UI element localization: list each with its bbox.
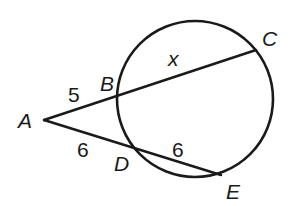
segment-label-ad: 6	[77, 138, 89, 161]
secant-circle-diagram: A B C D E 5 x 6 6	[0, 0, 290, 206]
segment-label-bc: x	[167, 47, 180, 70]
point-label-e: E	[226, 180, 241, 203]
segment-label-de: 6	[172, 138, 184, 161]
point-label-d: D	[114, 152, 129, 175]
point-label-b: B	[100, 72, 114, 95]
point-label-a: A	[16, 109, 32, 132]
point-label-c: C	[262, 27, 278, 50]
secant-ae	[44, 120, 221, 175]
segment-label-ab: 5	[68, 83, 80, 106]
circle	[117, 21, 273, 177]
